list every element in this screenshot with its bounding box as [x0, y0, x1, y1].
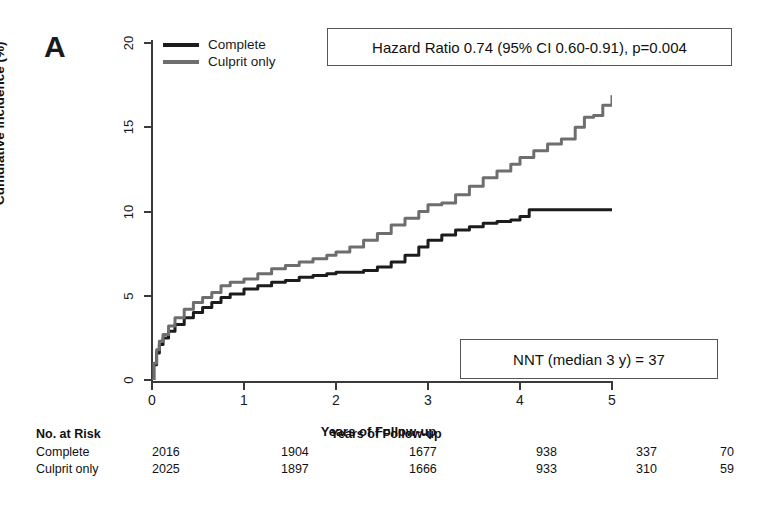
- hazard-ratio-box: Hazard Ratio 0.74 (95% CI 0.60-0.91), p=…: [327, 28, 732, 66]
- y-tick-label-5: 5: [121, 281, 136, 311]
- y-tick-15: [144, 126, 152, 128]
- risk-value: 1904: [281, 445, 329, 459]
- nnt-box: NNT (median 3 y) = 37: [460, 339, 718, 379]
- risk-value: 1677: [409, 445, 457, 459]
- y-tick-label-10: 10: [121, 197, 136, 227]
- risk-table-row: Complete20161904167793833770: [36, 445, 736, 462]
- x-tick-1: [243, 383, 245, 390]
- risk-value: 2016: [152, 445, 200, 459]
- nnt-text: NNT (median 3 y) = 37: [513, 351, 665, 368]
- curve-culprit-only: [152, 95, 612, 380]
- y-tick-10: [144, 211, 152, 213]
- x-axis-line: [151, 381, 613, 383]
- risk-value: 2025: [152, 462, 200, 476]
- plot-area: [152, 43, 612, 380]
- risk-row-label: Complete: [36, 445, 116, 459]
- x-tick-label-4: 4: [507, 392, 533, 408]
- y-axis-label: Cumulative incidence (%): [0, 41, 7, 205]
- x-tick-label-5: 5: [599, 392, 625, 408]
- chart-legend: CompleteCulprit only: [163, 36, 276, 70]
- x-tick-label-3: 3: [415, 392, 441, 408]
- risk-value: 933: [536, 462, 584, 476]
- risk-value: 938: [536, 445, 584, 459]
- legend-label: Complete: [208, 37, 266, 52]
- y-tick-0: [144, 379, 152, 381]
- y-tick-label-0: 0: [121, 365, 136, 395]
- risk-value: 1897: [281, 462, 329, 476]
- legend-swatch-icon: [163, 60, 199, 64]
- risk-value: 59: [720, 462, 757, 476]
- risk-value: 1666: [409, 462, 457, 476]
- legend-swatch-icon: [163, 43, 199, 47]
- risk-value: 70: [720, 445, 757, 459]
- number-at-risk-table: No. at Risk Years of Follow-up Complete2…: [36, 427, 736, 479]
- x-tick-2: [335, 383, 337, 390]
- risk-value: 337: [636, 445, 684, 459]
- x-tick-label-0: 0: [139, 392, 165, 408]
- x-tick-0: [151, 383, 153, 390]
- x-tick-label-2: 2: [323, 392, 349, 408]
- y-tick-5: [144, 295, 152, 297]
- y-tick-20: [144, 42, 152, 44]
- x-tick-5: [611, 383, 613, 390]
- risk-table-body: Complete20161904167793833770Culprit only…: [36, 445, 736, 479]
- x-tick-4: [519, 383, 521, 390]
- risk-value: 310: [636, 462, 684, 476]
- y-tick-label-15: 15: [121, 112, 136, 142]
- x-tick-label-1: 1: [231, 392, 257, 408]
- cumulative-incidence-curves: [152, 43, 612, 380]
- figure-panel: A 05101520 012345 Cumulative incidence (…: [0, 0, 757, 521]
- legend-label: Culprit only: [208, 54, 276, 69]
- legend-item-complete: Complete: [163, 36, 276, 53]
- x-tick-3: [427, 383, 429, 390]
- follow-up-label: Years of Follow-up: [36, 427, 736, 441]
- hazard-ratio-text: Hazard Ratio 0.74 (95% CI 0.60-0.91), p=…: [372, 39, 687, 56]
- risk-table-row: Culprit only20251897166693331059: [36, 462, 736, 479]
- risk-table-header: No. at Risk Years of Follow-up: [36, 427, 736, 445]
- y-tick-label-20: 20: [121, 28, 136, 58]
- legend-item-culprit-only: Culprit only: [163, 53, 276, 70]
- risk-row-label: Culprit only: [36, 462, 116, 476]
- panel-label: A: [44, 30, 66, 64]
